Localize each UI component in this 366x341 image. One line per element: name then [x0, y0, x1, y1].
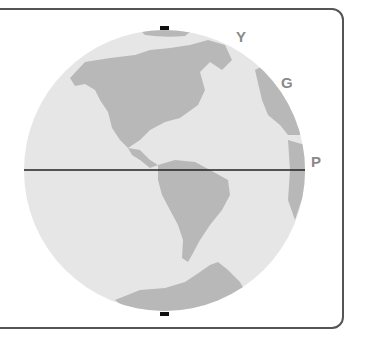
globe	[0, 0, 366, 341]
label-y: Y	[236, 28, 246, 45]
north-pole-marker	[160, 26, 169, 30]
label-g: G	[281, 74, 293, 91]
south-pole-marker	[160, 312, 169, 316]
label-p: P	[311, 153, 321, 170]
